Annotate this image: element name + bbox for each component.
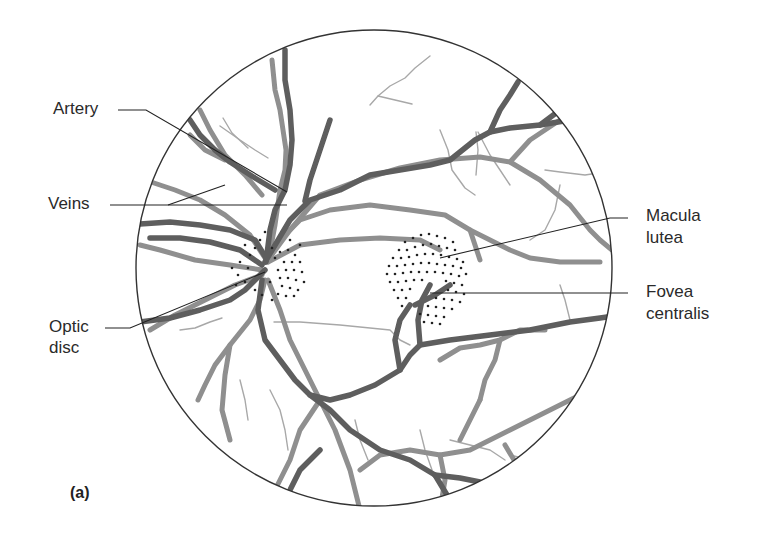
macula-lutea-dots <box>386 233 468 326</box>
label-fovea-line1: Fovea <box>646 282 693 302</box>
panel-label: (a) <box>70 484 90 502</box>
label-fovea-line2: centralis <box>646 304 709 324</box>
leader-lines <box>105 110 628 328</box>
label-artery: Artery <box>53 99 98 119</box>
label-veins: Veins <box>48 194 90 214</box>
retina-fundus-diagram <box>0 0 766 555</box>
label-macula-line2: lutea <box>646 228 683 248</box>
veins <box>140 50 620 505</box>
label-optic-disc-line2: disc <box>49 338 79 358</box>
label-macula-line1: Macula <box>646 206 701 226</box>
label-optic-disc-line1: Optic <box>49 317 89 337</box>
